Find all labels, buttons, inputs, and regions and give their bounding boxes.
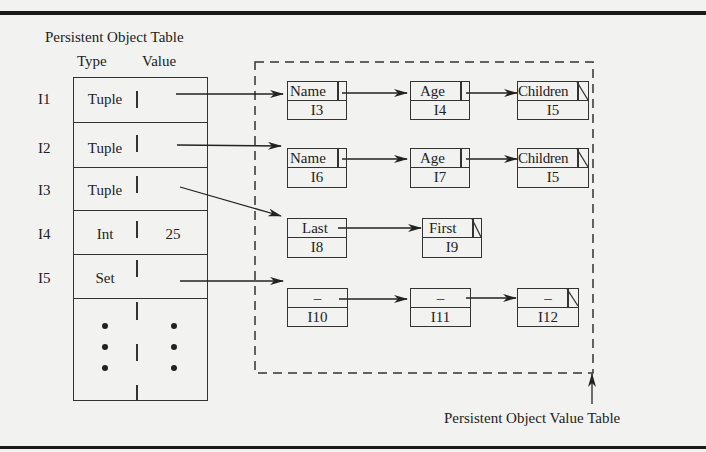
field-ref: I8	[288, 238, 346, 257]
value-cell-age-i4: Age I4	[410, 81, 470, 120]
value-cell-age-i7: Age I7	[410, 148, 470, 188]
field-label: Last	[288, 219, 346, 238]
value-cell-last-i8: Last I8	[287, 218, 347, 258]
field-label: –	[288, 289, 347, 308]
pointer-slot	[337, 82, 339, 101]
field-ref: I9	[423, 238, 481, 257]
field-ref: I3	[288, 101, 346, 120]
value-cell-first-i9: First I9	[422, 218, 482, 258]
pointer-slot	[460, 82, 462, 101]
value-cell-i10: – I10	[287, 288, 348, 327]
value-cell-children-i5: Children I5	[517, 81, 589, 120]
field-label: –	[411, 289, 470, 308]
field-ref: I11	[411, 308, 470, 327]
field-ref: I12	[518, 308, 578, 327]
value-cell-i12: – I12	[517, 288, 579, 327]
pointer-slot	[577, 82, 579, 101]
connector-overlay	[0, 0, 706, 452]
pointer-slot	[337, 149, 339, 168]
value-cell-name-i6: Name I6	[287, 148, 347, 188]
field-ref: I4	[411, 101, 469, 120]
field-ref: I5	[518, 101, 588, 120]
field-ref: I5	[518, 168, 588, 187]
pointer-slot	[577, 149, 579, 168]
pointer-slot	[567, 289, 569, 308]
pointer-arrow	[180, 187, 281, 216]
field-ref: I7	[411, 168, 469, 187]
value-cell-i11: – I11	[410, 288, 471, 327]
pointer-arrow	[177, 145, 281, 146]
field-ref: I10	[288, 308, 347, 327]
value-cell-children-i5: Children I5	[517, 148, 589, 188]
field-ref: I6	[288, 168, 346, 187]
value-cell-name-i3: Name I3	[287, 81, 347, 120]
pointer-slot	[472, 219, 474, 238]
value-table-caption: Persistent Object Value Table	[444, 410, 620, 427]
pointer-slot	[460, 149, 462, 168]
field-label: –	[518, 289, 578, 308]
